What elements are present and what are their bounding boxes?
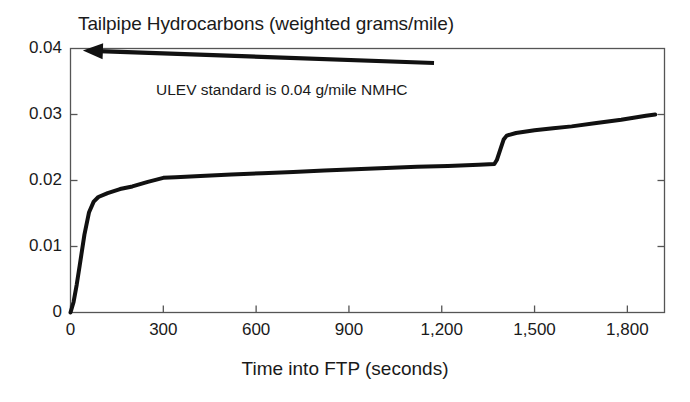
chart-figure: Tailpipe Hydrocarbons (weighted grams/mi…	[0, 0, 690, 402]
annotation-arrow-head	[83, 43, 103, 59]
x-tick-label: 1,500	[485, 320, 585, 340]
data-series-group	[71, 115, 656, 313]
annotation-arrow-group	[83, 43, 434, 63]
y-tick-label: 0.02	[0, 170, 62, 190]
x-tick-label: 1,200	[392, 320, 492, 340]
y-tick-label: 0.03	[0, 104, 62, 124]
x-tick-label: 1,800	[577, 320, 677, 340]
annotation-arrow-shaft	[99, 51, 434, 63]
x-tick-label: 300	[113, 320, 213, 340]
chart-canvas	[0, 0, 690, 402]
x-axis-tick-marks	[71, 306, 628, 313]
y-tick-label: 0	[0, 302, 62, 322]
x-tick-label: 0	[21, 320, 121, 340]
y-tick-label: 0.04	[0, 38, 62, 58]
x-axis-title: Time into FTP (seconds)	[0, 358, 690, 380]
y-tick-label: 0.01	[0, 236, 62, 256]
x-tick-label: 600	[206, 320, 306, 340]
data-line	[71, 115, 656, 313]
ulev-standard-note: ULEV standard is 0.04 g/mile NMHC	[156, 81, 408, 99]
x-tick-label: 900	[299, 320, 399, 340]
